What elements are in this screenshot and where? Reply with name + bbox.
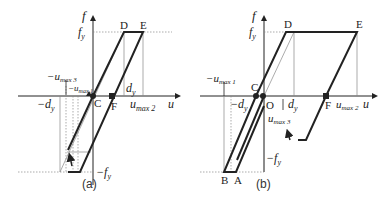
point-f-marker <box>109 93 115 99</box>
neg-dy-label: −dy <box>37 97 55 113</box>
neg-fy-label: −fy <box>266 151 281 167</box>
point-d-label: D <box>284 18 292 30</box>
panel-b: f fy −fy u D E C O F B A −umax 1 −dy dy … <box>200 8 375 191</box>
point-c-label: C <box>94 97 101 109</box>
point-a-label: A <box>234 174 242 186</box>
umax2-label: umax 2 <box>336 98 359 112</box>
point-e-label: E <box>356 18 363 30</box>
u-axis-label: u <box>363 97 369 111</box>
point-c-marker <box>253 93 259 99</box>
point-f-label: F <box>325 99 331 111</box>
neg-umax1-label: −umax 1 <box>68 83 93 94</box>
umax2-label: umax 2 <box>130 97 155 113</box>
hysteresis-diagram: f fy −fy u D E C F −umax 3 −umax 1 −dy d… <box>0 0 388 202</box>
fy-label: fy <box>249 25 256 41</box>
point-c-label: C <box>251 81 258 93</box>
neg-dy-label: −dy <box>230 97 248 113</box>
neg-umax3-label: −umax 3 <box>47 70 77 84</box>
point-f-label: F <box>111 100 117 112</box>
point-e-label: E <box>140 19 147 31</box>
panel-a: f fy −fy u D E C F −umax 3 −umax 1 −dy d… <box>18 8 178 191</box>
f-axis-label: f <box>252 8 258 23</box>
point-d-label: D <box>120 19 128 31</box>
caption-a: (a) <box>82 177 97 191</box>
caption-b: (b) <box>256 177 271 191</box>
neg-fy-label: −fy <box>96 165 111 181</box>
point-b-label: B <box>221 174 228 186</box>
u-axis-label: u <box>168 97 174 111</box>
neg-umax1-label: −umax 1 <box>206 72 236 86</box>
umax3-label: umax 3 <box>268 112 291 126</box>
fy-label: fy <box>78 25 85 41</box>
dy-label: dy <box>126 81 136 97</box>
point-o-label: O <box>266 99 274 111</box>
dy-label: dy <box>288 97 298 113</box>
f-axis-label: f <box>82 8 88 23</box>
